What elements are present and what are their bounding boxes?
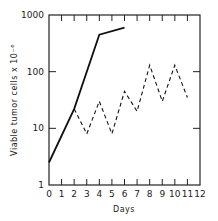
x-tick-label: 8 [147, 189, 153, 199]
y-axis-title: Viable tumor cells x 10⁻⁶ [10, 44, 19, 156]
plot-border [49, 15, 200, 185]
x-tick-label: 0 [46, 189, 52, 199]
x-tick-label: 3 [84, 189, 90, 199]
x-tick-label: 9 [159, 189, 165, 199]
x-tick-label: 6 [122, 189, 128, 199]
solid-line-series [49, 28, 125, 163]
x-tick-label: 2 [71, 189, 77, 199]
y-tick-label: 100 [27, 67, 44, 77]
x-tick-label: 12 [194, 189, 205, 199]
x-tick-label: 1 [59, 189, 65, 199]
x-axis-ticks: 0123456789101112 [46, 15, 206, 199]
x-tick-label: 4 [96, 189, 102, 199]
x-tick-label: 7 [134, 189, 140, 199]
dashed-line-series [74, 65, 187, 134]
x-tick-label: 5 [109, 189, 115, 199]
chart: 0123456789101112 1101001000 Days Viable … [0, 0, 218, 221]
y-axis-ticks: 1101001000 [21, 10, 200, 190]
x-tick-label: 11 [182, 189, 193, 199]
data-series [49, 28, 187, 163]
y-tick-label: 10 [33, 123, 45, 133]
plot-frame [49, 15, 200, 185]
y-tick-label: 1000 [21, 10, 44, 20]
y-tick-label: 1 [38, 180, 44, 190]
x-axis-title: Days [113, 205, 135, 214]
x-tick-label: 10 [169, 189, 181, 199]
